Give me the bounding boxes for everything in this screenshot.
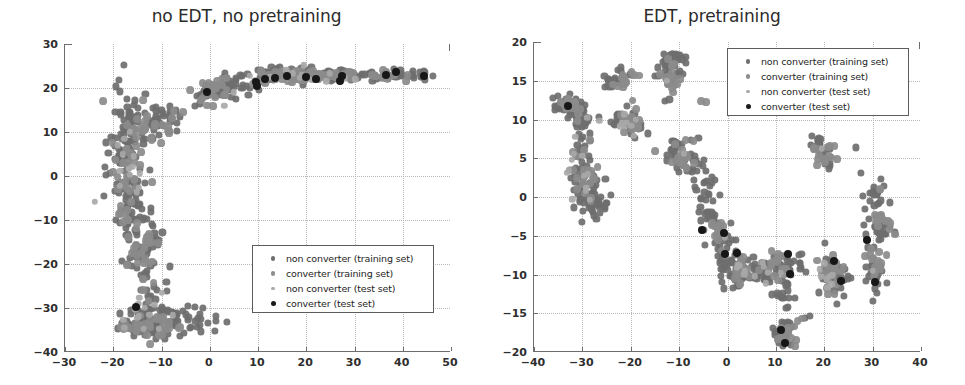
scatter-point — [717, 191, 724, 198]
legend-item[interactable]: converter (test set) — [735, 99, 899, 114]
legend-item-label: converter (test set) — [761, 101, 850, 112]
scatter-point — [139, 275, 147, 283]
x-axis-tick — [921, 347, 922, 351]
scatter-point — [879, 215, 887, 223]
legend-swatch-dot — [746, 90, 750, 94]
scatter-point — [92, 198, 98, 204]
x-axis-tick — [306, 347, 307, 351]
scatter-point — [163, 287, 170, 294]
x-axis-tick-label: −20 — [100, 356, 125, 369]
scatter-point — [869, 297, 876, 304]
y-axis-tick-label: 10 — [483, 113, 527, 126]
scatter-point — [792, 294, 799, 301]
scatter-point — [139, 96, 147, 104]
scatter-point — [109, 169, 117, 177]
scatter-point — [119, 218, 127, 226]
x-axis-tick — [451, 347, 452, 351]
scatter-point — [149, 222, 156, 229]
scatter-point — [702, 99, 710, 107]
scatter-point — [223, 318, 230, 325]
scatter-point — [670, 60, 678, 68]
scatter-point — [550, 95, 557, 102]
scatter-point — [827, 154, 835, 162]
legend-item[interactable]: converter (test set) — [260, 296, 424, 311]
scatter-point — [574, 117, 582, 125]
y-axis-tick — [534, 42, 538, 43]
legend-swatch-dot — [271, 287, 275, 291]
scatter-point — [784, 287, 791, 294]
legend-item[interactable]: converter (training set) — [735, 69, 899, 84]
scatter-point — [579, 218, 586, 225]
scatter-point — [167, 263, 174, 270]
scatter-point — [815, 289, 822, 296]
legend-marker-icon — [260, 301, 286, 306]
y-axis-tick-label: 0 — [0, 170, 58, 183]
scatter-point — [174, 128, 181, 135]
scatter-point — [159, 313, 167, 321]
legend-item[interactable]: non converter (test set) — [260, 281, 424, 296]
x-axis-tick-label: 40 — [912, 356, 927, 369]
scatter-point — [141, 117, 149, 125]
scatter-point — [199, 304, 206, 311]
scatter-point — [690, 176, 697, 183]
y-axis-tick — [534, 120, 538, 121]
legend-item[interactable]: non converter (test set) — [735, 84, 899, 99]
scatter-point — [693, 168, 700, 175]
y-axis-tick-label: 20 — [0, 82, 58, 95]
scatter-point — [352, 76, 358, 82]
scatter-point — [179, 108, 187, 116]
scatter-point — [139, 286, 147, 294]
legend-swatch-dot — [746, 104, 751, 109]
legend-marker-icon — [735, 59, 761, 63]
scatter-point — [602, 176, 609, 183]
axis-right-stub — [449, 44, 450, 51]
y-axis-tick — [534, 275, 538, 276]
y-axis-tick — [65, 44, 69, 45]
scatter-point — [670, 89, 678, 97]
scatter-point — [429, 73, 436, 80]
scatter-point — [132, 225, 140, 233]
scatter-point — [629, 97, 637, 105]
legend-item[interactable]: non converter (training set) — [735, 54, 899, 69]
scatter-point — [837, 277, 845, 285]
y-axis-tick — [65, 220, 69, 221]
scatter-point — [784, 303, 791, 310]
scatter-point — [569, 196, 575, 202]
scatter-point — [127, 198, 135, 206]
scatter-point — [392, 68, 400, 76]
legend-item[interactable]: converter (training set) — [260, 266, 424, 281]
scatter-point — [579, 208, 586, 215]
legend-item-label: non converter (training set) — [286, 253, 413, 264]
legend-item[interactable]: non converter (training set) — [260, 251, 424, 266]
scatter-point — [877, 175, 884, 182]
y-axis-tick-label: 0 — [483, 191, 527, 204]
scatter-point — [698, 226, 706, 234]
scatter-point — [132, 303, 140, 311]
scatter-point — [116, 88, 123, 95]
legend-right[interactable]: non converter (training set)converter (t… — [727, 48, 909, 116]
scatter-point — [791, 343, 799, 351]
scatter-point — [288, 78, 296, 86]
scatter-point — [158, 289, 164, 295]
scatter-point — [690, 137, 698, 145]
legend-item-label: non converter (test set) — [286, 283, 395, 294]
scatter-point — [123, 184, 131, 192]
scatter-point — [703, 167, 710, 174]
legend-item-label: converter (test set) — [286, 298, 375, 309]
x-axis-tick-label: −10 — [148, 356, 173, 369]
x-axis-tick-label: 10 — [767, 356, 782, 369]
x-axis-tick-label: 50 — [442, 356, 457, 369]
scatter-point — [211, 328, 218, 335]
legend-swatch-dot — [746, 74, 751, 79]
scatter-point — [571, 204, 578, 211]
scatter-point — [271, 74, 279, 82]
x-axis-tick-label: 30 — [864, 356, 879, 369]
legend-left[interactable]: non converter (training set)converter (t… — [252, 245, 434, 313]
gridline-horizontal — [534, 313, 920, 314]
x-axis-tick — [728, 347, 729, 351]
scatter-point — [221, 102, 227, 108]
scatter-point — [283, 72, 291, 80]
scatter-point — [100, 192, 107, 199]
scatter-point — [404, 71, 412, 79]
scatter-point — [831, 290, 839, 298]
